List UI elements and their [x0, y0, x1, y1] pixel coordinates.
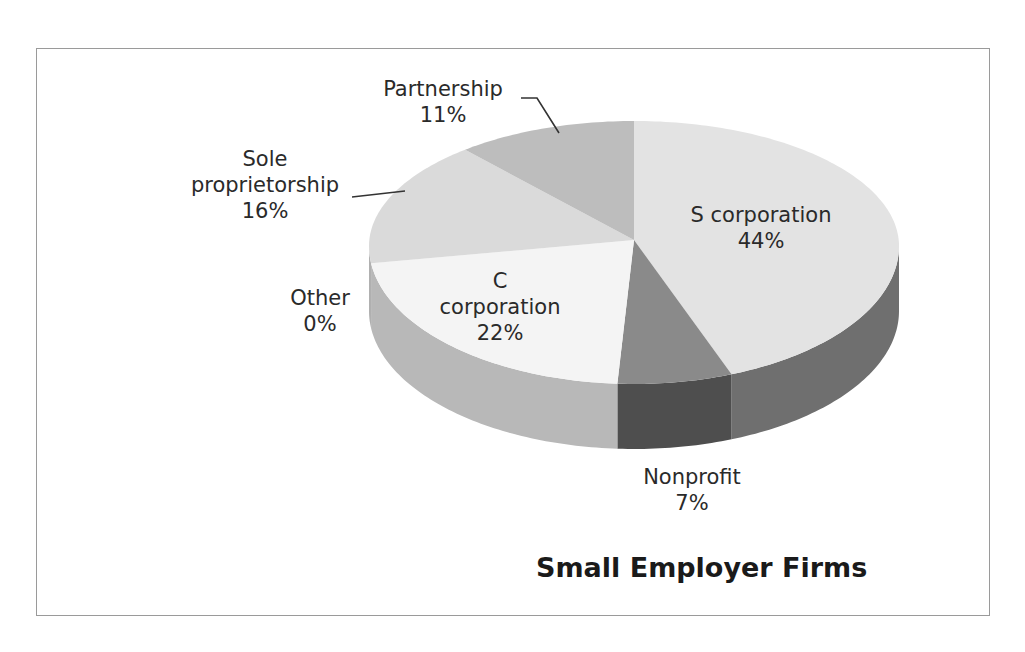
label-partnership: Partnership 11%	[366, 76, 520, 128]
label-value: 7%	[622, 490, 762, 516]
pie-side-nonprofit	[617, 374, 731, 449]
label-s-corporation: S corporation 44%	[670, 202, 852, 254]
label-value: 22%	[430, 320, 570, 346]
label-value: 16%	[180, 198, 350, 224]
label-value: 11%	[366, 102, 520, 128]
label-nonprofit: Nonprofit 7%	[622, 464, 762, 516]
label-value: 0%	[270, 311, 370, 337]
label-sole-proprietorship: Sole proprietorship 16%	[180, 146, 350, 224]
label-c-corporation: C corporation 22%	[430, 268, 570, 346]
chart-title: Small Employer Firms	[536, 552, 867, 583]
label-name-line1: Sole	[180, 146, 350, 172]
label-name: Other	[270, 285, 370, 311]
label-other: Other 0%	[270, 285, 370, 337]
label-name-line2: corporation	[430, 294, 570, 320]
label-name: Partnership	[366, 76, 520, 102]
label-value: 44%	[670, 228, 852, 254]
label-name-line2: proprietorship	[180, 172, 350, 198]
label-name: Nonprofit	[622, 464, 762, 490]
label-name: S corporation	[670, 202, 852, 228]
label-name-line1: C	[430, 268, 570, 294]
